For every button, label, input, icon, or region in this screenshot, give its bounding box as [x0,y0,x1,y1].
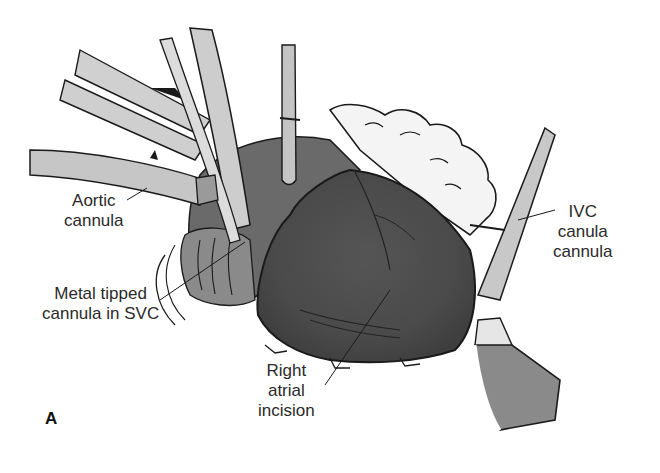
panel-letter: A [45,409,57,429]
ivc-vessel [475,345,560,430]
label-aortic-cannula: Aortic cannula [64,191,124,231]
label-metal-tipped-cannula: Metal tipped cannula in SVC [42,284,159,324]
cardioplegia-cannula [282,45,296,185]
label-right-atrial-incision: Right atrial incision [258,361,315,421]
svc-region [181,228,255,305]
label-ivc-cannula: IVC canula cannula [553,202,613,262]
surgical-illustration: Aortic cannula Metal tipped cannula in S… [0,0,660,473]
